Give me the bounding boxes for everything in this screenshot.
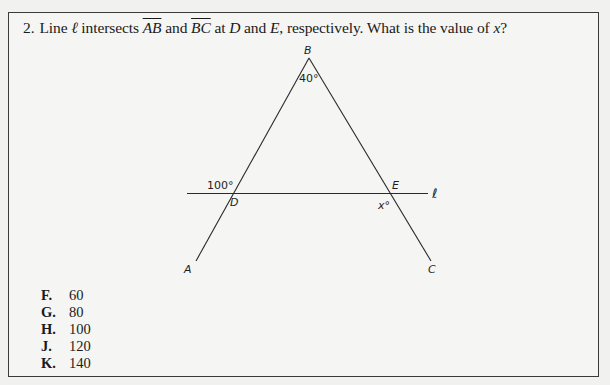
choice-j[interactable]: J. 120 — [41, 338, 91, 355]
answer-choices: F. 60 G. 80 H. 100 J. 120 K. 140 — [41, 287, 91, 372]
angle-b-label: 40° — [299, 72, 319, 85]
triangle-figure: B 40° 100° D E x° ℓ A C — [0, 0, 610, 385]
angle-e-label: x° — [377, 199, 390, 212]
choice-letter: J. — [41, 338, 69, 355]
choice-value: 140 — [69, 355, 91, 372]
label-e: E — [392, 179, 399, 192]
side-bc — [309, 58, 431, 261]
choice-g[interactable]: G. 80 — [41, 304, 91, 321]
choice-letter: H. — [41, 321, 69, 338]
angle-d-label: 100° — [207, 179, 234, 192]
label-d: D — [230, 196, 238, 209]
choice-value: 120 — [69, 338, 91, 355]
label-c: C — [428, 263, 436, 276]
label-line-l: ℓ — [431, 186, 437, 201]
label-b: B — [304, 44, 312, 57]
choice-letter: F. — [41, 287, 69, 304]
label-a: A — [183, 263, 192, 276]
choice-value: 60 — [69, 287, 84, 304]
choice-value: 80 — [69, 304, 84, 321]
choice-h[interactable]: H. 100 — [41, 321, 91, 338]
choice-k[interactable]: K. 140 — [41, 355, 91, 372]
choice-value: 100 — [69, 321, 91, 338]
side-ba — [196, 58, 309, 261]
choice-letter: G. — [41, 304, 69, 321]
choice-f[interactable]: F. 60 — [41, 287, 91, 304]
choice-letter: K. — [41, 355, 69, 372]
